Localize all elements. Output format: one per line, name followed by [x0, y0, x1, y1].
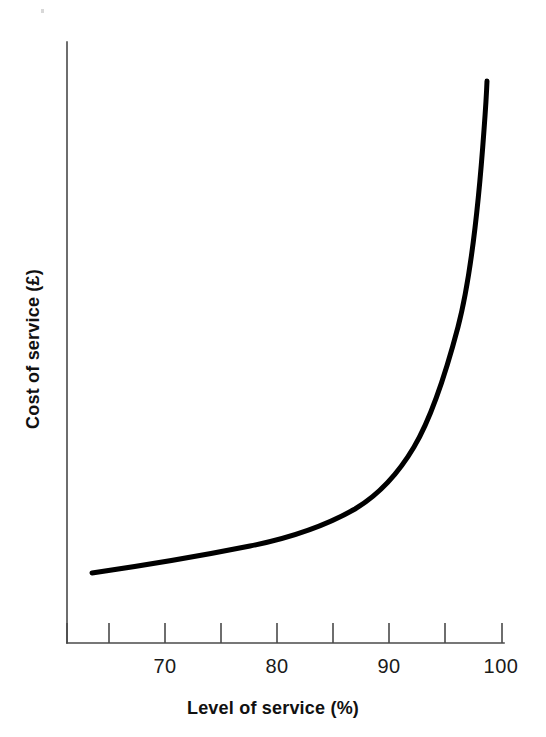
x-tick-label-80: 80 — [247, 655, 307, 678]
x-axis-ticks — [67, 623, 502, 643]
cost-of-service-chart: 70 80 90 100 Level of service (%) Cost o… — [0, 0, 546, 737]
plot-area — [0, 0, 546, 737]
x-tick-label-90: 90 — [359, 655, 419, 678]
x-tick-label-100: 100 — [471, 655, 531, 678]
x-axis-title: Level of service (%) — [0, 698, 546, 719]
x-tick-label-70: 70 — [135, 655, 195, 678]
cost-curve — [92, 81, 487, 573]
y-axis-title: Cost of service (£) — [23, 129, 45, 569]
